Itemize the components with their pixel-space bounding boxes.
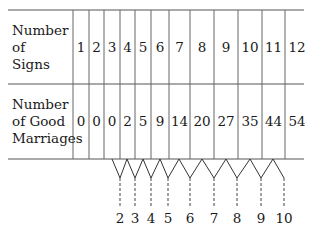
signs-cell: 2: [89, 39, 104, 55]
difference-label: 8: [227, 210, 247, 226]
signs-cell: 5: [135, 39, 151, 55]
marriages-cell: 2: [120, 113, 135, 129]
signs-cell: 4: [120, 39, 135, 55]
marriages-cell: 27: [214, 113, 238, 129]
signs-cell: 3: [104, 39, 120, 55]
marriages-cell: 54: [285, 113, 309, 129]
difference-label: 7: [204, 210, 224, 226]
difference-label: 10: [274, 210, 294, 226]
signs-cell: 7: [169, 39, 190, 55]
difference-label: 6: [180, 210, 200, 226]
signs-cell: 8: [190, 39, 214, 55]
difference-label: 9: [251, 210, 271, 226]
signs-cell: 1: [73, 39, 89, 55]
signs-cell: 9: [214, 39, 238, 55]
marriages-cell: 20: [190, 113, 214, 129]
signs-cell: 12: [285, 39, 309, 55]
marriages-cell: 0: [73, 113, 89, 129]
sequence-differences-table: Number of Signs Number of Good Marriages…: [0, 0, 314, 241]
difference-label: 5: [158, 210, 178, 226]
marriages-cell: 5: [135, 113, 151, 129]
signs-cell: 6: [151, 39, 169, 55]
signs-cell: 10: [238, 39, 262, 55]
marriages-cell: 0: [104, 113, 120, 129]
marriages-cell: 14: [169, 113, 190, 129]
marriages-cell: 0: [89, 113, 104, 129]
marriages-cell: 9: [151, 113, 169, 129]
signs-cell: 11: [262, 39, 285, 55]
marriages-cell: 44: [262, 113, 285, 129]
row-label-signs: Number of Signs: [12, 22, 68, 73]
marriages-cell: 35: [238, 113, 262, 129]
